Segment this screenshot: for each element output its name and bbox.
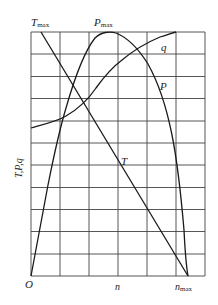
y-axis-label: T,P,q (13, 158, 24, 178)
q-curve (31, 32, 176, 128)
p-curve-label: P (159, 80, 167, 92)
n-max-label: nmax (175, 281, 193, 293)
chart-figure: Tmax Pmax q P T T,P,q O n nmax (0, 0, 218, 305)
q-curve-label: q (161, 41, 167, 53)
origin-label: O (25, 278, 33, 290)
t-curve-label: T (121, 155, 128, 167)
p-max-label: Pmax (93, 16, 113, 29)
grid (31, 32, 205, 276)
power-curve (31, 32, 188, 276)
torque-line (41, 32, 188, 276)
t-max-label: Tmax (31, 16, 50, 29)
x-axis-label: n (115, 281, 120, 292)
